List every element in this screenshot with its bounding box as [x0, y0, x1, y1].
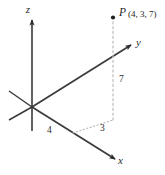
figure-svg: z y x P (4, 3, 7) 7 3 4	[0, 0, 165, 175]
point-p-marker	[111, 15, 115, 19]
point-p-label: P	[118, 6, 126, 18]
guide-y-leg	[73, 120, 113, 133]
y-axis-label: y	[135, 36, 141, 48]
coordinate-system-figure: z y x P (4, 3, 7) 7 3 4	[0, 0, 165, 175]
measure-label-z: 7	[119, 74, 124, 84]
measure-label-x: 4	[47, 125, 52, 135]
point-p-coordinates: (4, 3, 7)	[128, 9, 157, 19]
z-axis-label: z	[25, 3, 31, 15]
negative-x-axis-ray	[9, 107, 32, 120]
x-axis-label: x	[117, 154, 123, 166]
negative-y-axis-ray	[9, 91, 32, 107]
negative-axis-rays	[9, 91, 32, 131]
measure-label-y: 3	[100, 123, 105, 133]
positive-axes	[32, 20, 131, 159]
y-axis	[32, 45, 131, 107]
